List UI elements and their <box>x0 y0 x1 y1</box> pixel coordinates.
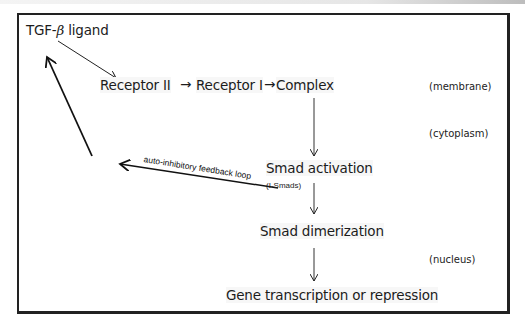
node-receptor-i: Receptor I <box>196 77 263 93</box>
location-nucleus: (nucleus) <box>429 254 475 265</box>
annotation-i-smads: (I-Smads) <box>266 181 301 190</box>
ligand-prefix: TGF- <box>26 22 57 38</box>
arrow-receptor2-to-receptor1: → <box>180 76 191 92</box>
node-tgf-beta-ligand: TGF-β ligand <box>26 22 109 38</box>
node-receptor-ii: Receptor II <box>100 77 171 93</box>
ligand-suffix: ligand <box>64 22 108 38</box>
arrow-layer <box>0 0 525 324</box>
arrow-ligand-to-receptor2 <box>58 41 116 78</box>
node-smad-dimerization: Smad dimerization <box>260 223 384 239</box>
node-complex: Complex <box>276 77 334 93</box>
ligand-greek-beta: β <box>57 22 65 38</box>
arrow-receptor1-to-complex: → <box>264 76 275 92</box>
arrow-feedback-upper <box>47 57 92 156</box>
location-membrane: (membrane) <box>429 81 492 92</box>
node-gene-transcription: Gene transcription or repression <box>226 287 438 303</box>
location-cytoplasm: (cytoplasm) <box>429 128 488 139</box>
node-smad-activation: Smad activation <box>266 160 373 176</box>
